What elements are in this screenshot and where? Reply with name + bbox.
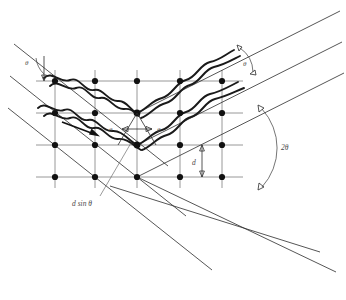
atom [219, 78, 225, 84]
theta-right-center-label: θ [157, 126, 161, 134]
incident-angle-label: θ [25, 59, 29, 67]
atom [92, 110, 98, 116]
atom-scatter-center-lower [134, 142, 141, 149]
atom [134, 78, 140, 84]
atom [134, 174, 140, 180]
theta-left-center-label: θ [109, 126, 113, 134]
atom [92, 142, 98, 148]
atom [219, 174, 225, 180]
atom [52, 142, 58, 148]
atom [219, 142, 225, 148]
atom [52, 110, 58, 116]
figure-background [0, 0, 346, 300]
atom [52, 78, 58, 84]
atom [177, 110, 183, 116]
scattered-angle-label: θ [243, 60, 247, 68]
atom [177, 78, 183, 84]
atom [52, 174, 58, 180]
atom [92, 174, 98, 180]
path-difference-label: d sin θ [72, 199, 92, 208]
atom [92, 78, 98, 84]
atom [219, 110, 225, 116]
interplanar-spacing-label: d [192, 158, 196, 167]
atom [177, 174, 183, 180]
bragg-diffraction-figure: θ θ 2θ θ θ d sin θ d [0, 0, 346, 300]
two-theta-label: 2θ [281, 143, 289, 152]
atom [177, 142, 183, 148]
